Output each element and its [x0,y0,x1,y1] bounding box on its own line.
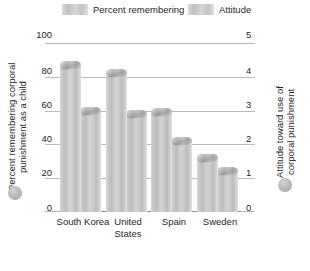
left-axis-marker-dot-icon [8,186,22,200]
bar-sweden-percent-remembering [197,158,218,212]
left-axis-title: Percent remembering corporal punishment … [6,52,30,202]
legend-label-percent: Percent remembering [93,4,184,15]
right-tick-stub-5 [241,43,255,44]
bar-cap-shade [106,69,127,78]
bar-cap-shade [217,167,238,176]
gridline-80 [59,77,241,78]
legend-swatch-percent-icon [62,4,88,15]
gridline-100 [59,43,241,44]
bar-cap-shade [80,107,101,116]
bar-spain-attitude [171,141,192,212]
left-tick-stub-0 [45,211,59,212]
right-tick-stub-2 [241,144,255,145]
bar-cap-shade [126,110,147,119]
legend-swatch-attitude-icon [188,4,214,15]
right-axis-tick-1: 1 [246,168,276,178]
right-axis-tick-5: 5 [246,30,276,40]
right-tick-stub-0 [241,211,255,212]
bar-united-states-attitude [126,114,147,212]
bar-south-korea-percent-remembering [60,65,81,212]
right-axis-marker-dot-icon [278,178,292,192]
right-axis-tick-3: 3 [246,100,276,110]
bar-sweden-attitude [217,171,238,212]
bar-spain-percent-remembering [151,112,172,212]
bar-cap-shade [171,137,192,146]
left-tick-stub-60 [45,111,59,112]
left-tick-stub-40 [45,144,59,145]
legend-label-attitude: Attitude [219,4,251,15]
bar-cap-shade [60,61,81,70]
right-axis-title: Attitude toward use of corporal punishme… [274,68,298,196]
chart-legend: Percent remembering Attitude [0,4,310,22]
right-axis-tick-4: 4 [246,66,276,76]
legend-item-attitude: Attitude [188,4,251,15]
left-tick-stub-80 [45,77,59,78]
left-tick-stub-100 [45,43,59,44]
category-axis-labels: South Korea United States Spain Sweden [59,216,241,256]
right-tick-stub-4 [241,77,255,78]
bar-cap-shade [151,108,172,117]
chart-container: Percent remembering Attitude 100 80 60 4… [0,0,310,271]
bar-united-states-percent-remembering [106,73,127,212]
bar-cap-shade [197,154,218,163]
left-tick-stub-20 [45,178,59,179]
right-tick-stub-3 [241,111,255,112]
category-label-sweden: Sweden [193,216,247,228]
legend-item-percent-remembering: Percent remembering [62,4,184,15]
bar-south-korea-attitude [80,111,101,212]
right-tick-stub-1 [241,178,255,179]
left-axis-tick-100: 100 [22,30,52,40]
plot-area [59,43,241,212]
right-axis-tick-2: 2 [246,134,276,144]
